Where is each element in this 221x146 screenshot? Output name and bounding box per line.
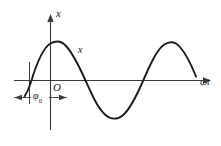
- phase-subscript: 0: [39, 97, 42, 104]
- origin-label: O: [53, 82, 61, 93]
- x-axis-label: ωt: [200, 77, 210, 87]
- phase-arrow-left-icon: [15, 95, 23, 101]
- initial-phase-label: φ0: [33, 91, 42, 104]
- phase-arrow-right-icon: [59, 95, 67, 101]
- waveform-canvas: [0, 0, 221, 146]
- phase-symbol: φ: [33, 90, 39, 101]
- x-axis-group: [14, 77, 211, 83]
- y-axis-group: [47, 14, 53, 130]
- waveform-figure: x ωt O x φ0: [0, 0, 221, 146]
- curve-label: x: [78, 45, 82, 55]
- y-axis-arrow-icon: [47, 14, 53, 22]
- y-axis-label: x: [56, 8, 61, 19]
